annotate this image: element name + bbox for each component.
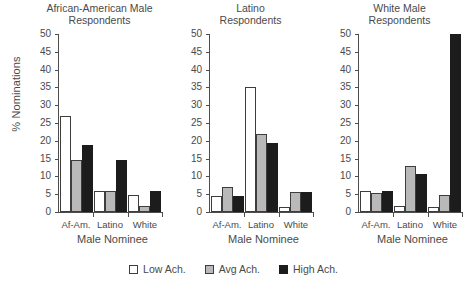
bar [394,206,405,212]
y-axis-tick-label: 20 [31,136,51,146]
y-axis-tick [206,141,209,142]
y-axis-tick [206,159,209,160]
x-axis-tick-label: Latino [93,220,127,230]
y-axis-tick-label: 25 [182,118,202,128]
bar [439,195,450,212]
y-axis-tick-label: 0 [331,207,351,217]
x-axis-label: Male Nominee [196,233,331,245]
y-axis-tick [355,87,358,88]
y-axis-tick [206,212,209,213]
x-axis-tick-label: Latino [244,220,278,230]
x-axis-tick [93,213,94,217]
x-axis-tick [128,213,129,217]
bar [405,166,416,212]
x-axis-line [358,212,463,213]
x-axis-tick [393,213,394,217]
y-axis-tick [206,123,209,124]
bar [94,191,105,212]
legend-swatch-low [129,265,138,274]
bar [382,191,393,212]
plot-area: 05101520253035404550Af-Am.LatinoWhiteMal… [32,0,167,255]
y-axis-tick [355,70,358,71]
bar [256,134,267,212]
legend-swatch-high [279,265,288,274]
y-axis-line [209,34,210,213]
bar [128,195,139,212]
plot-area: 05101520253035404550Af-Am.LatinoWhiteMal… [332,0,467,255]
y-axis-tick [355,159,358,160]
y-axis-tick [55,176,58,177]
x-axis-tick [279,213,280,217]
y-axis-tick-label: 25 [31,118,51,128]
y-axis-tick-label: 0 [182,207,202,217]
chart-panel: African-American Male Respondents0510152… [32,0,167,255]
y-axis-tick [355,194,358,195]
y-axis-tick [355,176,358,177]
y-axis-tick-label: 15 [31,154,51,164]
x-axis-tick-label: Af-Am. [210,220,244,230]
y-axis-tick [55,123,58,124]
x-axis-tick-label: White [128,220,162,230]
bar [105,191,116,212]
chart-figure: % Nominations African-American Male Resp… [0,0,467,291]
chart-panel: White Male Respondents051015202530354045… [332,0,467,255]
y-axis-tick [55,159,58,160]
bar [211,196,222,212]
y-axis-tick-label: 30 [331,100,351,110]
y-axis-tick [206,194,209,195]
y-axis-tick [55,70,58,71]
x-axis-tick [462,213,463,217]
x-axis-tick [162,213,163,217]
y-axis-tick-label: 40 [331,65,351,75]
y-axis-tick [55,52,58,53]
y-axis-tick-label: 50 [331,29,351,39]
bar [360,191,371,212]
y-axis-tick-label: 30 [31,100,51,110]
x-axis-line [58,212,163,213]
y-axis-tick-label: 45 [331,47,351,57]
y-axis-tick-label: 15 [331,154,351,164]
y-axis-tick-label: 0 [31,207,51,217]
y-axis-tick-label: 50 [31,29,51,39]
legend-label: Low Ach. [143,263,186,275]
bar [371,193,382,212]
y-axis-tick-label: 45 [31,47,51,57]
y-axis-tick [206,176,209,177]
bar [279,207,290,212]
bar [428,207,439,212]
y-axis-tick-label: 10 [331,171,351,181]
bar [267,143,278,212]
x-axis-label: Male Nominee [345,233,467,245]
y-axis-tick-label: 50 [182,29,202,39]
bar [60,116,71,212]
bar [82,145,93,212]
x-axis-label: Male Nominee [45,233,180,245]
y-axis-tick [206,34,209,35]
y-axis-tick [355,212,358,213]
bar [290,192,301,212]
y-axis-tick-label: 5 [182,189,202,199]
y-axis-tick [55,212,58,213]
chart-panel: Latino Respondents05101520253035404550Af… [183,0,318,255]
y-axis-tick-label: 40 [31,65,51,75]
y-axis-tick [355,34,358,35]
y-axis-tick [55,87,58,88]
y-axis-tick-label: 10 [31,171,51,181]
x-axis-tick-label: Af-Am. [359,220,393,230]
y-axis-tick [355,105,358,106]
y-axis-tick [355,123,358,124]
bar [222,187,233,212]
y-axis-line [358,34,359,213]
y-axis-tick [55,34,58,35]
x-axis-tick-label: Af-Am. [59,220,93,230]
y-axis-tick-label: 35 [182,82,202,92]
y-axis-tick-label: 30 [182,100,202,110]
bar [245,87,256,212]
legend-item: Low Ach. [129,263,186,275]
bar [116,160,127,212]
legend-label: Avg Ach. [219,263,260,275]
y-axis-tick-label: 5 [331,189,351,199]
legend-swatch-avg [205,265,214,274]
bar [139,206,150,212]
plot-area: 05101520253035404550Af-Am.LatinoWhiteMal… [183,0,318,255]
